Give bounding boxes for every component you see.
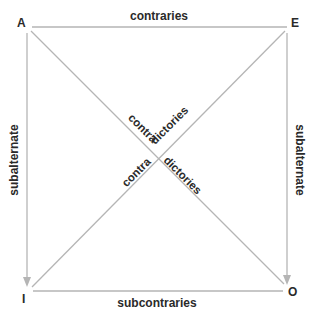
subcontraries-label: subcontraries <box>117 296 197 310</box>
corner-o-label: O <box>288 285 297 299</box>
contraries-label: contraries <box>130 9 188 23</box>
contradictories-lower-right: dictories <box>162 154 204 196</box>
left-subalternate-label: subalternate <box>7 124 21 196</box>
square-of-opposition-diagram: A E I O contraries subcontraries subalte… <box>0 0 317 320</box>
contradictories-upper-right: dictories <box>148 104 190 146</box>
corner-i-label: I <box>22 292 25 306</box>
diagonal-a-o <box>31 31 284 284</box>
corner-a-label: A <box>17 16 26 30</box>
left-arrowhead-icon <box>23 277 31 287</box>
corner-e-label: E <box>291 16 299 30</box>
right-subalternate-label: subalternate <box>293 124 307 196</box>
contradictories-lower-left: contra <box>119 155 153 189</box>
